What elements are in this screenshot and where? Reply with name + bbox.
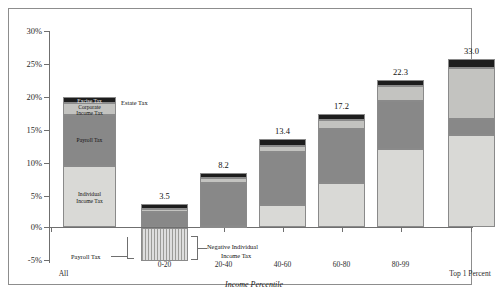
value-label-top-1-percent: 33.0 — [448, 46, 495, 56]
segment-corporate-income-tax-all: Corporate Income Tax — [63, 103, 116, 115]
inline-label-individual-l1: Individual — [64, 191, 115, 198]
segment-individual-income-tax-80-99 — [377, 149, 424, 227]
x-axis-line — [49, 227, 473, 228]
bar-0-20[interactable] — [141, 204, 188, 227]
x-tick-40-60 — [283, 227, 284, 232]
bar-40-60[interactable] — [259, 139, 306, 227]
annotation-estate-tax: Estate Tax — [121, 99, 148, 107]
segment-excise-tax-40-60 — [259, 139, 306, 146]
y-tick-5 — [44, 196, 49, 197]
y-axis-labels: 30% 25% 20% 15% 10% 5% 0% -5% — [9, 31, 42, 263]
x-axis-title: Income Percentile — [225, 280, 283, 289]
bar-top-1-percent[interactable] — [448, 59, 495, 227]
y-tick-label-20: 20% — [26, 93, 42, 102]
annotation-payroll-tax-callout: Payroll Tax — [71, 253, 100, 261]
segment-payroll-tax-20-40 — [200, 183, 247, 226]
y-tick-label-0: 0% — [31, 223, 42, 232]
segment-individual-income-tax-40-60 — [259, 205, 306, 227]
y-tick-label-neg5: -5% — [28, 256, 42, 265]
y-tick-label-5: 5% — [31, 192, 42, 201]
y-tick-20 — [44, 97, 49, 98]
segment-individual-income-tax-all: Individual Income Tax — [63, 166, 116, 227]
segment-excise-tax-top1 — [448, 59, 495, 68]
y-tick-label-25: 25% — [26, 60, 42, 69]
y-tick-15 — [44, 130, 49, 131]
value-label-60-80: 17.2 — [318, 101, 365, 111]
y-tick-label-30: 30% — [26, 27, 42, 36]
x-tick-top1 — [471, 227, 472, 232]
bar-80-99[interactable] — [377, 80, 424, 227]
y-tick-25 — [44, 64, 49, 65]
segment-payroll-tax-40-60 — [259, 152, 306, 205]
chart-frame: 30% 25% 20% 15% 10% 5% 0% -5% — [8, 8, 472, 285]
value-label-40-60: 13.4 — [259, 126, 306, 136]
inline-label-payroll-tax: Payroll Tax — [64, 137, 115, 144]
y-tick-10 — [44, 163, 49, 164]
y-tick-neg5 — [44, 260, 49, 261]
leader-negative-individual — [198, 248, 207, 249]
x-axis-label-0-20: 0-20 — [141, 260, 188, 269]
segment-corporate-income-tax-80-99 — [377, 86, 424, 101]
segment-corporate-income-tax-60-80 — [318, 120, 365, 129]
x-tick-80-99 — [401, 227, 402, 232]
y-tick-label-15: 15% — [26, 126, 42, 135]
segment-payroll-tax-80-99 — [377, 101, 424, 149]
x-tick-all — [51, 227, 52, 232]
value-label-80-99: 22.3 — [377, 67, 424, 77]
x-axis-label-60-80: 60-80 — [318, 260, 365, 269]
leader-payroll-callout — [111, 256, 127, 257]
annotation-negative-individual-l1: Negative Individual — [207, 243, 258, 251]
segment-corporate-income-tax-top1 — [448, 68, 495, 119]
x-tick-60-80 — [342, 227, 343, 232]
segment-payroll-tax-60-80 — [318, 129, 365, 183]
value-label-20-40: 8.2 — [200, 160, 247, 170]
segment-individual-income-tax-20-40 — [200, 226, 247, 228]
annotation-negative-individual-l2: Income Tax — [221, 252, 251, 260]
x-axis-label-80-99: 80-99 — [377, 260, 424, 269]
bar-20-40[interactable] — [200, 173, 247, 227]
bracket-payroll-callout — [127, 237, 134, 259]
segment-payroll-tax-all: Payroll Tax — [63, 115, 116, 166]
bracket-negative-individual — [191, 236, 198, 260]
segment-payroll-tax-0-20 — [141, 212, 188, 227]
segment-individual-income-tax-top1 — [448, 135, 495, 227]
y-tick-label-10: 10% — [26, 159, 42, 168]
x-axis-label-20-40: 20-40 — [200, 260, 247, 269]
segment-payroll-tax-top1 — [448, 119, 495, 135]
x-axis-label-top-1-percent: Top 1 Percent — [430, 269, 499, 278]
segment-individual-income-tax-60-80 — [318, 183, 365, 227]
bar-60-80[interactable] — [318, 114, 365, 227]
x-axis-label-all: All — [37, 269, 90, 278]
bar-all[interactable]: Excise Tax Corporate Income Tax Payroll … — [63, 97, 116, 227]
x-axis-label-40-60: 40-60 — [259, 260, 306, 269]
segment-negative-individual-income-tax-0-20 — [141, 228, 188, 261]
y-tick-30 — [44, 31, 49, 32]
plot-area: 30% 25% 20% 15% 10% 5% 0% -5% — [49, 31, 473, 265]
y-axis-line — [49, 31, 50, 263]
inline-label-individual-l2: Income Tax — [64, 198, 115, 205]
value-label-0-20: 3.5 — [141, 191, 188, 201]
